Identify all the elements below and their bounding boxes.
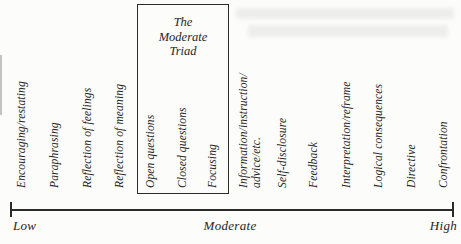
skill-label-focusing: Focusing <box>206 144 219 188</box>
influence-continuum-figure: The Moderate Triad Encouraging/restating… <box>0 0 461 244</box>
page-bleedthrough-artifact <box>236 8 454 19</box>
skill-label-line-2: advice/etc. <box>250 73 263 188</box>
scan-edge-artifact <box>0 55 2 115</box>
skill-label-feedback: Feedback <box>307 142 320 188</box>
skill-label-confrontation: Confrontation <box>437 121 450 188</box>
axis-tick-right <box>452 202 454 217</box>
skill-label-encouraging-restating: Encouraging/restating <box>15 81 28 188</box>
continuum-axis-line <box>10 209 454 211</box>
skill-label-information-instruction-advice: Information/instruction/ advice/etc. <box>237 73 263 188</box>
skill-label-paraphrasing: Paraphrasing <box>48 122 61 188</box>
skill-label-interpretation-reframe: Interpretation/reframe <box>340 81 353 188</box>
skill-label-directive: Directive <box>405 144 418 188</box>
moderate-triad-title: The Moderate Triad <box>138 15 228 59</box>
skill-label-self-disclosure: Self-disclosure <box>276 118 289 188</box>
skill-label-open-questions: Open questions <box>144 115 157 188</box>
axis-label-low: Low <box>13 218 36 234</box>
skill-label-reflection-of-meaning: Reflection of meaning <box>113 84 126 188</box>
skill-label-reflection-of-feelings: Reflection of feelings <box>81 88 94 188</box>
axis-label-moderate: Moderate <box>190 218 270 234</box>
skill-label-closed-questions: Closed questions <box>176 107 189 188</box>
skill-label-logical-consequences: Logical consequences <box>372 84 385 188</box>
skill-label-line-1: Information/instruction/ <box>237 73 250 188</box>
triad-title-line-3: Triad <box>138 44 228 59</box>
page-bleedthrough-artifact <box>248 25 448 37</box>
axis-label-high: High <box>423 218 457 234</box>
triad-title-line-2: Moderate <box>138 30 228 45</box>
axis-tick-left <box>10 202 12 217</box>
triad-title-line-1: The <box>138 15 228 30</box>
